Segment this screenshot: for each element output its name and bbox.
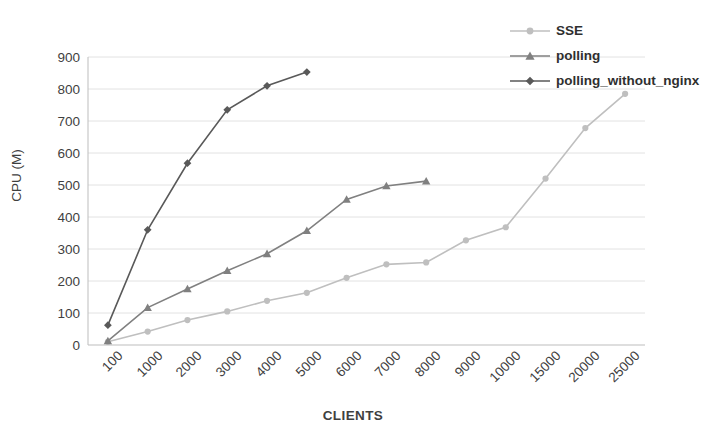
data-point-marker — [542, 176, 548, 182]
legend-label: polling_without_nginx — [552, 73, 699, 88]
legend-marker-icon — [508, 24, 552, 38]
y-tick-label: 700 — [57, 114, 80, 129]
legend-item-polling_without_nginx[interactable]: polling_without_nginx — [508, 68, 703, 93]
data-point-marker — [145, 328, 151, 334]
x-tick-label: 100 — [99, 348, 126, 375]
y-tick-label: 200 — [57, 274, 80, 289]
chart-legend: SSEpollingpolling_without_nginx — [508, 18, 703, 93]
y-tick-label: 400 — [57, 210, 80, 225]
data-point-marker — [144, 226, 152, 234]
data-point-marker — [303, 68, 311, 76]
y-tick-label: 300 — [57, 242, 80, 257]
y-tick-label: 600 — [57, 146, 80, 161]
x-tick-label: 10000 — [486, 348, 523, 385]
y-tick-label: 800 — [57, 82, 80, 97]
data-point-marker — [383, 261, 389, 267]
data-point-marker — [526, 76, 535, 85]
data-point-marker — [263, 250, 271, 258]
x-tick-label: 7000 — [372, 348, 404, 380]
x-tick-label: 15000 — [526, 348, 563, 385]
x-tick-label: 20000 — [566, 348, 603, 385]
y-axis-tick-labels: 9008007006005004003002001000 — [30, 57, 80, 345]
legend-label: SSE — [552, 23, 583, 38]
legend-item-polling[interactable]: polling — [508, 43, 703, 68]
data-point-marker — [104, 321, 112, 329]
x-tick-label: 2000 — [173, 348, 205, 380]
y-tick-label: 100 — [57, 306, 80, 321]
data-point-marker — [304, 290, 310, 296]
x-tick-label: 6000 — [332, 348, 364, 380]
data-point-marker — [582, 125, 588, 131]
cpu-vs-clients-line-chart: CPU (M) 9008007006005004003002001000 100… — [0, 0, 706, 442]
x-tick-label: 9000 — [452, 348, 484, 380]
series-line-polling_without_nginx — [108, 72, 307, 325]
x-tick-label: 4000 — [253, 348, 285, 380]
plot-svg — [88, 57, 645, 345]
data-point-marker — [264, 298, 270, 304]
legend-marker-icon — [508, 49, 552, 63]
data-point-marker — [463, 237, 469, 243]
series-line-polling — [108, 181, 426, 341]
legend-item-SSE[interactable]: SSE — [508, 18, 703, 43]
data-point-marker — [527, 27, 534, 34]
data-point-marker — [503, 224, 509, 230]
data-point-marker — [423, 259, 429, 265]
data-point-marker — [184, 317, 190, 323]
data-point-marker — [143, 303, 151, 311]
x-tick-label: 1000 — [133, 348, 165, 380]
x-tick-label: 8000 — [412, 348, 444, 380]
y-tick-label: 500 — [57, 178, 80, 193]
plot-area — [88, 57, 645, 345]
data-point-marker — [183, 285, 191, 293]
data-point-marker — [224, 308, 230, 314]
x-tick-label: 25000 — [606, 348, 643, 385]
data-point-marker — [344, 275, 350, 281]
x-tick-label: 3000 — [213, 348, 245, 380]
x-axis-tick-labels: 1001000200030004000500060007000800090001… — [88, 348, 645, 408]
x-axis-title: CLIENTS — [0, 408, 706, 423]
y-axis-title: CPU (M) — [9, 131, 24, 221]
legend-label: polling — [552, 48, 600, 63]
series-line-SSE — [108, 94, 625, 342]
y-tick-label: 0 — [72, 338, 80, 353]
legend-marker-icon — [508, 74, 552, 88]
y-tick-label: 900 — [57, 50, 80, 65]
x-tick-label: 5000 — [293, 348, 325, 380]
